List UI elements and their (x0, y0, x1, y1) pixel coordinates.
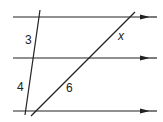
transversal-left (25, 10, 40, 115)
label-left-upper: 3 (25, 33, 32, 47)
diagram-canvas: 3 4 x 6 (0, 0, 163, 122)
arrow-bottom-icon (140, 109, 150, 114)
arrow-top-icon (140, 15, 150, 20)
label-right-upper: x (117, 29, 125, 43)
label-right-lower: 6 (66, 81, 73, 95)
transversal-right (31, 12, 135, 116)
label-left-lower: 4 (17, 80, 24, 94)
parallel-lines-diagram: 3 4 x 6 (0, 0, 163, 122)
arrow-middle-icon (140, 56, 150, 61)
